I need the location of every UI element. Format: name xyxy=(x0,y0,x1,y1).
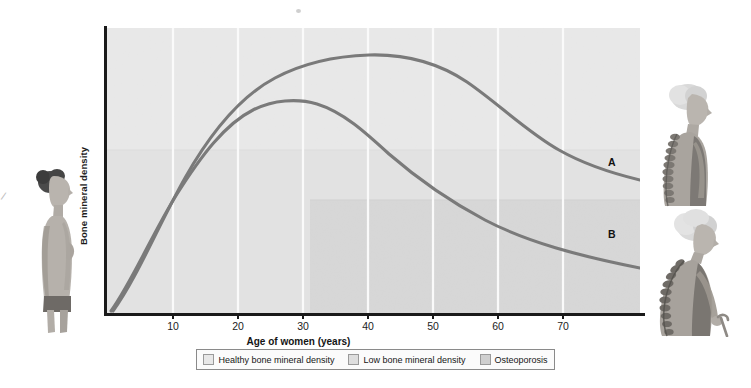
curve-label-a: A xyxy=(608,156,616,168)
x-tick-70 xyxy=(562,313,564,319)
y-axis-title-anchor: Bone mineral density xyxy=(86,135,87,136)
y-axis-line xyxy=(104,26,107,315)
x-tick-20 xyxy=(237,313,239,319)
x-tick-label-60: 60 xyxy=(492,320,504,332)
legend-label-low: Low bone mineral density xyxy=(363,355,465,365)
illustration-older-woman-spine-visible xyxy=(650,82,746,207)
illustration-elderly-woman-kyphosis-with-cane xyxy=(648,205,748,337)
legend: Healthy bone mineral density Low bone mi… xyxy=(196,349,555,370)
chart-canvas xyxy=(107,28,640,313)
x-tick-label-70: 70 xyxy=(557,320,569,332)
decorative-dot xyxy=(296,9,301,13)
illustration-young-woman-upright-posture xyxy=(24,160,94,335)
x-tick-label-20: 20 xyxy=(232,320,244,332)
curve-label-b: B xyxy=(608,228,616,240)
legend-label-osteoporosis: Osteoporosis xyxy=(495,355,548,365)
bone-density-figure: / xyxy=(0,0,751,388)
paper-grain xyxy=(107,28,640,313)
x-tick-60 xyxy=(497,313,499,319)
legend-item-osteoporosis: Osteoporosis xyxy=(480,354,548,365)
x-tick-label-50: 50 xyxy=(427,320,439,332)
x-tick-40 xyxy=(367,313,369,319)
x-tick-label-30: 30 xyxy=(297,320,309,332)
x-axis-title-wrap: Age of women (years) xyxy=(0,336,751,347)
x-tick-label-40: 40 xyxy=(362,320,374,332)
x-axis-title: Age of women (years) xyxy=(247,336,351,347)
x-tick-10 xyxy=(172,313,174,319)
legend-label-healthy: Healthy bone mineral density xyxy=(218,355,334,365)
plot-area xyxy=(107,28,640,313)
legend-swatch-healthy-icon xyxy=(203,354,214,365)
legend-swatch-osteoporosis-icon xyxy=(480,354,491,365)
legend-item-low: Low bone mineral density xyxy=(348,354,465,365)
legend-swatch-low-icon xyxy=(348,354,359,365)
decorative-slash: / xyxy=(0,190,7,202)
x-tick-30 xyxy=(302,313,304,319)
legend-item-healthy: Healthy bone mineral density xyxy=(203,354,334,365)
x-tick-50 xyxy=(432,313,434,319)
x-tick-label-10: 10 xyxy=(167,320,179,332)
